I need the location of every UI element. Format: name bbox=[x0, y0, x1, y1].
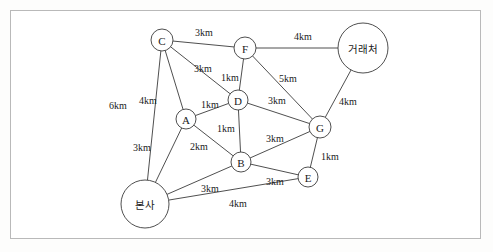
edge-weight-label-A-hq: 3km bbox=[133, 142, 151, 153]
graph-edge-client-G bbox=[325, 70, 351, 117]
node-label-F: F bbox=[242, 43, 248, 55]
graph-node-hq[interactable]: 본사 bbox=[121, 180, 169, 228]
graph-node-B[interactable]: B bbox=[231, 152, 251, 172]
node-label-E: E bbox=[305, 172, 312, 184]
node-layer: 본사거래처ABCDEFG bbox=[121, 23, 388, 228]
graph-node-A[interactable]: A bbox=[176, 109, 196, 129]
graph-edge-C-hq bbox=[147, 51, 160, 180]
edge-weight-label-C-A: 4km bbox=[139, 95, 157, 106]
node-label-B: B bbox=[237, 157, 244, 169]
graph-edge-B-E bbox=[251, 164, 298, 175]
graph-edge-D-B bbox=[238, 110, 240, 152]
graph-node-E[interactable]: E bbox=[298, 167, 318, 187]
edge-weight-label-B-G: 3km bbox=[266, 133, 284, 144]
graph-node-G[interactable]: G bbox=[309, 116, 331, 138]
edge-weight-label-hq-B: 3km bbox=[201, 183, 219, 194]
node-label-A: A bbox=[182, 114, 190, 126]
edge-weight-label-D-B: 1km bbox=[217, 123, 235, 134]
edge-weight-label-A-D: 1km bbox=[201, 99, 219, 110]
edge-weight-label-G-E: 1km bbox=[321, 151, 339, 162]
network-graph-canvas: 본사거래처ABCDEFG 3km4km3km1km5km4km6km4km1km… bbox=[0, 0, 493, 252]
edge-weight-label-C-F: 3km bbox=[195, 27, 213, 38]
edge-weight-label-hq-E: 4km bbox=[229, 198, 247, 209]
diagram-root: 본사거래처ABCDEFG 3km4km3km1km5km4km6km4km1km… bbox=[0, 0, 493, 252]
edge-weight-label-F-D: 1km bbox=[221, 72, 239, 83]
graph-edge-A-hq bbox=[155, 128, 181, 182]
edge-weight-label-A-B: 2km bbox=[190, 141, 208, 152]
edge-weight-label-F-client: 4km bbox=[294, 31, 312, 42]
graph-edge-hq-B bbox=[167, 166, 232, 194]
graph-edge-C-F bbox=[173, 41, 234, 47]
node-label-hq: 본사 bbox=[135, 199, 155, 211]
graph-node-D[interactable]: D bbox=[228, 90, 248, 110]
graph-edge-F-G bbox=[253, 56, 313, 119]
graph-edge-C-A bbox=[165, 51, 183, 110]
node-label-G: G bbox=[316, 122, 324, 134]
graph-edge-G-E bbox=[310, 138, 317, 168]
edge-weight-label-client-G: 4km bbox=[339, 96, 357, 107]
node-label-C: C bbox=[158, 35, 165, 47]
graph-node-F[interactable]: F bbox=[234, 37, 256, 59]
node-label-D: D bbox=[234, 95, 242, 107]
graph-node-client[interactable]: 거래처 bbox=[338, 23, 388, 73]
edge-weight-label-D-G: 3km bbox=[268, 95, 286, 106]
graph-edge-F-D bbox=[239, 59, 243, 90]
edge-weight-label-C-D: 3km bbox=[194, 63, 212, 74]
edge-weight-label-C-hq: 6km bbox=[109, 100, 127, 111]
graph-node-C[interactable]: C bbox=[151, 29, 173, 51]
edge-weight-label-B-E: 3km bbox=[266, 176, 284, 187]
edge-weight-label-F-G: 5km bbox=[279, 73, 297, 84]
node-label-client: 거래처 bbox=[348, 43, 378, 55]
